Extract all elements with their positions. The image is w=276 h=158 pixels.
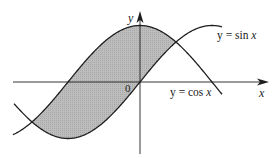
- y-axis-label: y: [127, 11, 134, 25]
- sin-curve-label: y = sin x: [217, 29, 257, 42]
- cos-label-prefix: y = cos: [170, 86, 206, 99]
- sin-label-prefix: y = sin: [217, 29, 251, 42]
- x-axis-label: x: [258, 86, 265, 100]
- origin-label: 0: [125, 82, 131, 94]
- cos-label-var: x: [205, 86, 212, 98]
- cos-curve-label: y = cos x: [170, 86, 212, 99]
- sin-label-var: x: [250, 29, 257, 41]
- sin-cos-area-figure: y x 0 y = sin x y = cos x: [0, 0, 276, 158]
